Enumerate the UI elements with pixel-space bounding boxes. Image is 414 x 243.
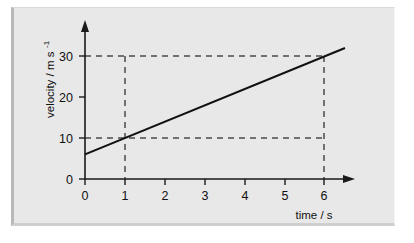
x-tick-label-4: 4: [242, 189, 249, 203]
y-tick-label-10: 10: [59, 132, 73, 146]
x-tick-marks: [85, 179, 324, 185]
x-tick-label-5: 5: [282, 189, 289, 203]
x-tick-label-2: 2: [162, 189, 169, 203]
y-tick-marks: [79, 56, 85, 179]
figure-root: 0 10 20 30 0 1 2 3 4: [0, 0, 414, 243]
velocity-time-chart: 0 10 20 30 0 1 2 3 4: [14, 8, 398, 227]
y-axis-title-text: velocity / m s: [44, 51, 56, 118]
x-tick-label-6: 6: [321, 189, 328, 203]
guide-lines: [85, 56, 324, 179]
x-axis-title: time / s: [295, 209, 332, 221]
x-tick-labels: 0 1 2 3 4 5 6: [82, 189, 328, 203]
y-axis-title: velocity / m s -1: [42, 40, 56, 118]
x-tick-label-3: 3: [202, 189, 209, 203]
y-axis-title-exponent: -1: [42, 40, 51, 48]
axes: [81, 20, 355, 183]
x-tick-label-1: 1: [122, 189, 129, 203]
y-tick-label-30: 30: [59, 50, 73, 64]
y-tick-labels: 0 10 20 30: [59, 50, 73, 187]
x-tick-label-0: 0: [82, 189, 89, 203]
chart-panel: 0 10 20 30 0 1 2 3 4: [11, 7, 395, 226]
y-tick-label-20: 20: [59, 91, 73, 105]
y-tick-label-0: 0: [66, 173, 73, 187]
y-axis-arrow-icon: [81, 20, 89, 32]
x-axis-arrow-icon: [343, 175, 355, 183]
